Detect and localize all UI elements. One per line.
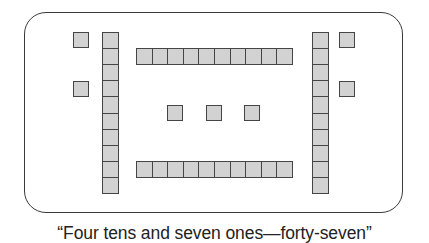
rod-unit [261,161,278,178]
rod-unit [312,113,329,130]
rod-unit [102,129,119,146]
rod-unit [312,129,329,146]
rod-unit [312,161,329,178]
rod-unit [261,48,278,65]
rod-unit [183,48,200,65]
rod-unit [167,161,184,178]
rod-unit [102,48,119,65]
rod-unit [198,161,215,178]
one-cube [73,32,89,48]
one-cube [206,105,222,121]
rod-unit [276,48,293,65]
rod-unit [245,48,262,65]
rod-unit [214,161,231,178]
rod-unit [276,161,293,178]
rod-unit [102,64,119,81]
rod-unit [152,48,169,65]
rod-unit [136,48,153,65]
one-cube [339,32,355,48]
rod-unit [214,48,231,65]
rod-unit [102,161,119,178]
rod-unit [152,161,169,178]
rod-unit [312,64,329,81]
figure-caption: “Four tens and seven ones—forty-seven” [0,223,429,243]
rod-unit [312,145,329,162]
rod-unit [230,161,247,178]
rod-unit [312,32,329,49]
rod-unit [102,177,119,194]
one-cube [339,81,355,97]
rod-unit [136,161,153,178]
rod-unit [102,32,119,49]
rod-unit [312,48,329,65]
rod-unit [245,161,262,178]
rod-unit [167,48,184,65]
rod-unit [198,48,215,65]
one-cube [73,81,89,97]
rod-unit [102,145,119,162]
rod-unit [312,80,329,97]
rod-unit [183,161,200,178]
one-cube [167,105,183,121]
rod-unit [230,48,247,65]
rod-unit [312,96,329,113]
rod-unit [102,80,119,97]
rod-unit [102,96,119,113]
rod-unit [102,113,119,130]
one-cube [244,105,260,121]
rod-unit [312,177,329,194]
